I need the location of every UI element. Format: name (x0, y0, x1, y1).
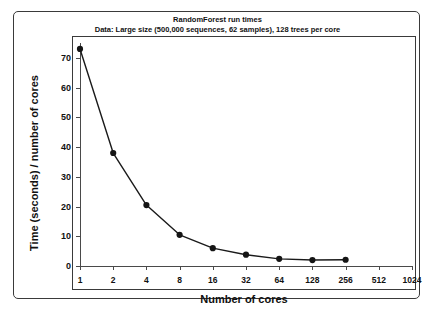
data-point-marker (210, 245, 216, 251)
chart-page: RandomForest run times Data: Large size … (0, 0, 432, 320)
y-tick-label: 10 (61, 231, 71, 241)
data-point-marker (77, 46, 83, 52)
x-tick (80, 266, 81, 270)
x-tick-label: 1 (78, 275, 83, 285)
y-tick-label: 70 (61, 53, 71, 63)
x-tick-label: 1024 (403, 275, 422, 285)
y-tick-label: 30 (61, 172, 71, 182)
y-tick-label: 20 (61, 202, 71, 212)
plot-area: 010203040506070 12481632641282565121024 (80, 43, 412, 266)
chart-title-block: RandomForest run times Data: Large size … (14, 15, 421, 35)
y-tick-label: 0 (66, 261, 71, 271)
data-point-marker (309, 257, 315, 263)
x-tick (379, 266, 380, 270)
series-path (80, 49, 346, 260)
x-tick-label: 64 (274, 275, 283, 285)
y-axis-title: Time (seconds) / number of cores (27, 36, 41, 290)
x-tick (279, 266, 280, 270)
x-tick-label: 16 (208, 275, 217, 285)
x-tick-label: 32 (241, 275, 250, 285)
data-point-marker (243, 252, 249, 258)
data-point-marker (110, 150, 116, 156)
x-tick (146, 266, 147, 270)
x-axis-title: Number of cores (72, 293, 416, 305)
y-tick-label: 60 (61, 83, 71, 93)
x-tick (312, 266, 313, 270)
data-series-line (80, 43, 412, 266)
x-tick (180, 266, 181, 270)
x-tick-label: 512 (372, 275, 386, 285)
x-tick (113, 266, 114, 270)
x-tick-label: 256 (339, 275, 353, 285)
chart-title: RandomForest run times (14, 15, 421, 25)
x-tick (346, 266, 347, 270)
data-point-marker (177, 232, 183, 238)
chart-subtitle: Data: Large size (500,000 sequences, 62 … (14, 25, 421, 35)
data-point-marker (143, 202, 149, 208)
data-point-marker (343, 257, 349, 263)
x-tick (213, 266, 214, 270)
x-tick-label: 128 (305, 275, 319, 285)
x-tick (412, 266, 413, 270)
x-tick-label: 4 (144, 275, 149, 285)
x-tick (246, 266, 247, 270)
y-tick-label: 40 (61, 142, 71, 152)
data-point-marker (276, 256, 282, 262)
x-tick-label: 2 (111, 275, 116, 285)
x-tick-label: 8 (177, 275, 182, 285)
chart-outer-frame: RandomForest run times Data: Large size … (13, 11, 420, 299)
y-tick-label: 50 (61, 112, 71, 122)
